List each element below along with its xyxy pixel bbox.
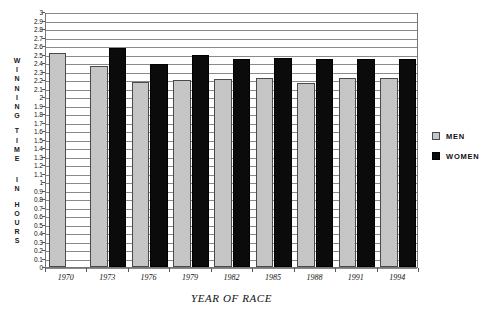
y-tick-label: 0.8 — [3, 196, 43, 203]
y-tick-label: 1.8 — [3, 111, 43, 118]
x-axis-title: YEAR OF RACE — [45, 292, 418, 304]
bar-group — [253, 14, 294, 267]
x-tick-mark — [86, 268, 87, 272]
bar-men — [380, 78, 398, 267]
x-axis-tick-labels: 197019731976197919821985198819911994 — [45, 268, 418, 292]
x-tick-mark — [294, 268, 295, 272]
x-tick-label: 1988 — [294, 273, 335, 282]
y-tick-label: 2 — [3, 94, 43, 101]
legend-label: MEN — [446, 132, 465, 141]
bar-women — [233, 59, 251, 267]
y-tick-label: 1.7 — [3, 120, 43, 127]
bar-group — [87, 14, 128, 267]
x-tick-label: 1979 — [169, 273, 210, 282]
y-tick-label: 0.7 — [3, 205, 43, 212]
bar-women — [192, 55, 210, 268]
x-tick-mark — [377, 268, 378, 272]
y-tick-label: 2.4 — [3, 60, 43, 67]
y-tick-label: 2.7 — [3, 35, 43, 42]
bar-men — [132, 82, 150, 267]
x-tick-mark — [128, 268, 129, 272]
y-tick-label: 3 — [3, 9, 43, 16]
y-tick-label: 0 — [3, 264, 43, 271]
bar-group — [129, 14, 170, 267]
bar-women — [399, 59, 417, 267]
legend-item-men: MEN — [432, 128, 494, 144]
bar-women — [109, 48, 127, 267]
y-tick-label: 0.1 — [3, 256, 43, 263]
x-tick-mark — [169, 268, 170, 272]
y-tick-label: 1.4 — [3, 145, 43, 152]
y-tick-label: 0.6 — [3, 213, 43, 220]
bar-men — [173, 80, 191, 267]
x-tick-mark — [418, 268, 419, 272]
x-tick-label: 1970 — [45, 273, 86, 282]
bar-women — [274, 58, 292, 267]
y-tick-label: 1.2 — [3, 162, 43, 169]
y-axis-tick-labels: 32.92.82.72.62.52.42.32.22.121.91.81.71.… — [0, 13, 43, 268]
y-tick-label: 2.3 — [3, 69, 43, 76]
bar-women — [357, 59, 375, 267]
x-tick-label: 1991 — [335, 273, 376, 282]
bar-group — [295, 14, 336, 267]
bar-group — [378, 14, 419, 267]
x-tick-mark — [211, 268, 212, 272]
y-tick-label: 0.4 — [3, 230, 43, 237]
bar-women — [150, 64, 168, 267]
x-tick-mark — [45, 268, 46, 272]
y-tick-label: 2.8 — [3, 26, 43, 33]
y-tick-label: 1.1 — [3, 171, 43, 178]
legend-label: WOMEN — [446, 152, 480, 161]
bar-women — [316, 59, 334, 267]
bar-men — [214, 79, 232, 267]
x-tick-label: 1985 — [252, 273, 293, 282]
bar-men — [49, 53, 67, 267]
legend-item-women: WOMEN — [432, 148, 494, 164]
y-tick-label: 1.6 — [3, 128, 43, 135]
y-tick-label: 2.6 — [3, 43, 43, 50]
bar-men — [339, 78, 357, 267]
y-tick-label: 0.9 — [3, 188, 43, 195]
x-tick-label: 1994 — [377, 273, 418, 282]
bar-group — [212, 14, 253, 267]
y-tick-label: 0.2 — [3, 247, 43, 254]
bar-men — [90, 66, 108, 267]
bar-group — [170, 14, 211, 267]
x-tick-label: 1982 — [211, 273, 252, 282]
legend-swatch-men — [432, 132, 440, 140]
y-tick-label: 1 — [3, 179, 43, 186]
plot-area — [45, 13, 418, 268]
x-tick-mark — [252, 268, 253, 272]
bar-men — [297, 83, 315, 267]
x-tick-label: 1976 — [128, 273, 169, 282]
y-tick-label: 2.2 — [3, 77, 43, 84]
bar-chart: WINNINGTIMEINHOURS 32.92.82.72.62.52.42.… — [0, 0, 497, 315]
chart-legend: MENWOMEN — [432, 128, 494, 168]
y-tick-label: 1.3 — [3, 154, 43, 161]
x-tick-label: 1973 — [86, 273, 127, 282]
x-tick-mark — [335, 268, 336, 272]
y-tick-label: 1.5 — [3, 137, 43, 144]
bar-men — [256, 78, 274, 267]
y-tick-label: 2.5 — [3, 52, 43, 59]
y-tick-label: 0.5 — [3, 222, 43, 229]
y-tick-label: 2.1 — [3, 86, 43, 93]
legend-swatch-women — [432, 152, 440, 160]
y-tick-label: 0.3 — [3, 239, 43, 246]
bar-group — [336, 14, 377, 267]
bar-group — [46, 14, 87, 267]
y-tick-label: 1.9 — [3, 103, 43, 110]
y-tick-label: 2.9 — [3, 18, 43, 25]
